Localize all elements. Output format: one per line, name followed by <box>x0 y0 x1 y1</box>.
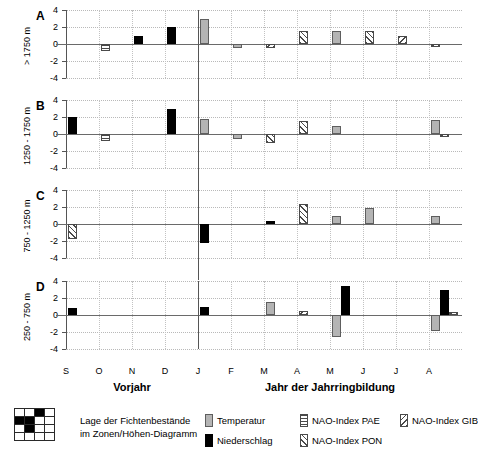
panel-c: C750 - 1250 m420-2-4 <box>0 190 473 266</box>
y-axis-tick-label: -4 <box>36 254 58 263</box>
y-axis-tick-label: -2 <box>36 237 58 246</box>
year-divider-line <box>198 281 199 349</box>
y-axis-tick-label: -2 <box>36 147 58 156</box>
y-axis-tick-label: 2 <box>36 203 58 212</box>
bar-temperatur <box>332 216 341 224</box>
y-axis-tick-label: 4 <box>36 186 58 195</box>
bar-temperatur <box>431 315 440 331</box>
bar-temperatur <box>431 216 440 225</box>
bar-niederschlag <box>200 224 209 243</box>
legend-label-niederschlag: Niederschlag <box>217 436 272 446</box>
bar-temperatur <box>266 302 275 315</box>
x-axis-tick-label: J <box>353 366 373 376</box>
year-divider-line <box>198 100 199 190</box>
y-axis-tick-mark <box>62 78 66 79</box>
bar-niederschlag <box>167 27 176 44</box>
bar-pon <box>299 121 308 134</box>
x-axis-tick-label: M <box>320 366 340 376</box>
y-axis-tick-label: 4 <box>36 277 58 286</box>
legend-label-temperatur: Temperatur <box>217 416 265 426</box>
legend: Lage der Fichtenbeständeim Zonen/Höhen-D… <box>0 406 473 455</box>
legend-label-map: Lage der Fichtenbeständeim Zonen/Höhen-D… <box>80 414 197 440</box>
y-axis-tick-mark <box>62 349 66 350</box>
plot-area: 420-2-4 <box>66 190 462 258</box>
bar-temperatur <box>233 134 242 139</box>
x-group-label-vorjahr: Vorjahr <box>56 381 208 393</box>
bar-temperatur <box>233 44 242 48</box>
y-axis-tick-label: 4 <box>36 96 58 105</box>
y-axis-tick-label: 4 <box>36 6 58 15</box>
y-axis-tick-label: -4 <box>36 164 58 173</box>
panel-b: B1250 - 1750 m420-2-4 <box>0 100 473 176</box>
legend-label-gib: NAO-Index GIB <box>412 416 478 426</box>
bar-pon <box>365 31 374 44</box>
bar-niederschlag <box>341 286 350 315</box>
year-divider-line <box>198 190 199 280</box>
plot-area: 420-2-4 <box>66 281 462 349</box>
bar-pon <box>266 134 275 143</box>
bar-niederschlag <box>68 117 77 134</box>
bar-gib <box>266 44 275 48</box>
bar-temperatur <box>200 119 209 134</box>
x-axis-tick-label: S <box>56 366 76 376</box>
bar-temperatur <box>431 120 440 134</box>
y-axis-tick-mark <box>62 168 66 169</box>
legend-label-pon: NAO-Index PON <box>312 436 382 446</box>
panel-d: D250 - 750 m420-2-4 <box>0 281 473 357</box>
y-axis-tick-label: -4 <box>36 74 58 83</box>
y-axis-tick-label: -2 <box>36 57 58 66</box>
y-axis-tick-label: 0 <box>36 220 58 229</box>
x-axis-tick-label: J <box>188 366 208 376</box>
legend-map-line1: Lage der Fichtenbestände <box>80 414 197 427</box>
panel-a: A> 1750 m420-2-4 <box>0 10 473 86</box>
gridline-horizontal <box>66 258 462 259</box>
y-axis-tick-label: -4 <box>36 345 58 354</box>
y-axis-tick-label: 2 <box>36 23 58 32</box>
panel-y-axis-label: > 1750 m <box>22 12 32 80</box>
zero-baseline <box>56 44 462 45</box>
bar-gib <box>449 312 458 315</box>
bar-temperatur <box>365 208 374 224</box>
legend-swatch-gib <box>400 414 408 427</box>
legend-swatch-niederschlag <box>205 434 213 447</box>
legend-swatch-pon <box>300 434 308 447</box>
legend-label-pae: NAO-Index PAE <box>312 416 380 426</box>
bar-niederschlag <box>440 290 449 315</box>
panel-y-axis-label: 750 - 1250 m <box>22 192 32 260</box>
bar-gib <box>431 44 440 47</box>
y-axis-tick-label: 2 <box>36 113 58 122</box>
x-axis-tick-label: O <box>89 366 109 376</box>
x-axis-tick-label: M <box>254 366 274 376</box>
y-axis-tick-label: 2 <box>36 294 58 303</box>
x-axis-tick-label: J <box>386 366 406 376</box>
y-axis-tick-label: 0 <box>36 40 58 49</box>
bar-niederschlag <box>266 221 275 224</box>
gridline-horizontal <box>66 168 462 169</box>
y-axis-tick-mark <box>62 258 66 259</box>
bar-niederschlag <box>167 109 176 135</box>
bar-pae <box>101 134 110 141</box>
bar-niederschlag <box>134 36 143 45</box>
panel-y-axis-label: 250 - 750 m <box>22 283 32 351</box>
map-cell <box>44 432 55 441</box>
y-axis-tick-label: 0 <box>36 130 58 139</box>
bar-temperatur <box>332 315 341 337</box>
bar-temperatur <box>332 31 341 44</box>
x-axis-tick-label: A <box>419 366 439 376</box>
y-axis-tick-label: 0 <box>36 311 58 320</box>
legend-swatch-temperatur <box>205 414 213 427</box>
bar-pae <box>101 44 110 51</box>
bar-temperatur <box>200 19 209 44</box>
x-axis-tick-label: N <box>122 366 142 376</box>
bar-pon <box>299 31 308 44</box>
x-axis-tick-label: A <box>287 366 307 376</box>
y-axis-tick-label: -2 <box>36 328 58 337</box>
zero-baseline <box>56 134 462 135</box>
panel-y-axis-label: 1250 - 1750 m <box>22 102 32 170</box>
plot-area: 420-2-4 <box>66 100 462 168</box>
x-axis-tick-label: D <box>155 366 175 376</box>
year-divider-line <box>198 10 199 100</box>
legend-swatch-pae <box>300 414 308 427</box>
zero-baseline <box>56 315 462 316</box>
